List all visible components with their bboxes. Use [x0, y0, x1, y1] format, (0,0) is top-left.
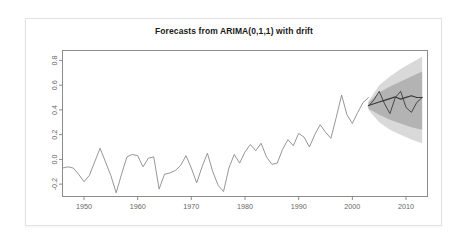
prediction-interval-bands	[368, 57, 422, 144]
x-tick-label: 1990	[291, 202, 307, 211]
plot-frame	[63, 51, 428, 197]
screenshot-root: Forecasts from ARIMA(0,1,1) with drift -…	[0, 0, 468, 241]
y-axis: -0.20.00.20.40.60.8	[50, 55, 62, 190]
observed-series-line	[63, 95, 369, 193]
forecast-chart[interactable]: -0.20.00.20.40.60.8 19501960197019801990…	[0, 0, 468, 241]
x-tick-label: 2010	[398, 202, 414, 211]
x-tick-label: 1960	[130, 202, 146, 211]
x-tick-label: 2000	[344, 202, 360, 211]
x-tick-label: 1950	[76, 202, 92, 211]
x-axis: 1950196019701980199020002010	[76, 197, 414, 212]
y-tick-label: 0.4	[50, 105, 59, 115]
x-tick-label: 1970	[183, 202, 199, 211]
x-tick-label: 1980	[237, 202, 253, 211]
y-tick-label: 0.2	[50, 130, 59, 140]
y-tick-label: 0.0	[50, 154, 59, 164]
y-tick-label: -0.2	[50, 178, 59, 190]
y-tick-label: 0.6	[50, 80, 59, 90]
y-tick-label: 0.8	[50, 55, 59, 65]
